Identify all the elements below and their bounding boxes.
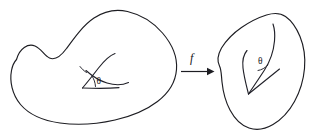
source-domain-outline — [11, 10, 177, 124]
source-domain-blob — [11, 10, 177, 124]
source-theta-label: θ — [97, 76, 102, 86]
target-theta-label: θ — [258, 56, 263, 66]
target-curve-left-branch — [243, 51, 249, 95]
target-domain-outline — [218, 14, 305, 130]
figure-canvas: θ f θ — [0, 0, 310, 140]
source-curve-spur — [80, 67, 87, 73]
map-arrow-head — [207, 68, 215, 75]
source-curve-sweep — [86, 71, 129, 85]
target-domain-blob — [218, 14, 305, 130]
source-curve-baseline — [83, 88, 120, 89]
source-angle-diagram: θ — [80, 54, 129, 89]
map-function-label: f — [190, 51, 195, 65]
target-angle-diagram: θ — [243, 24, 280, 94]
target-curve-tangent-ray — [249, 69, 280, 94]
map-arrow-group: f — [181, 51, 215, 75]
conformal-map-figure: θ f θ — [0, 0, 310, 140]
